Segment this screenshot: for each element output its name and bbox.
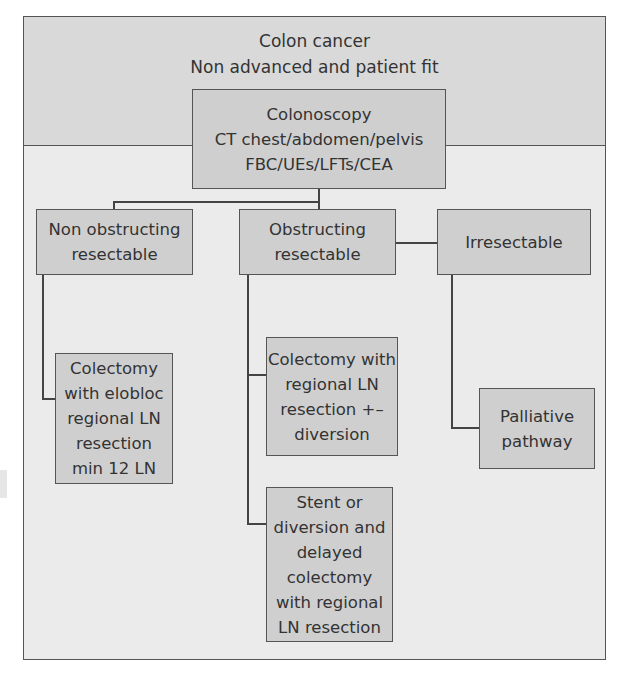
connector-to-colectomy-diversion	[247, 374, 266, 376]
connector-workup-down	[318, 189, 320, 209]
node-colectomy-enbloc: Colectomy with elobloc regional LN resec…	[55, 353, 173, 484]
header-title: Colon cancer Non advanced and patient fi…	[23, 28, 606, 80]
connector-to-colectomy-enbloc	[42, 398, 55, 400]
connector-to-stent-diversion	[247, 523, 266, 525]
connector-irresectable-down	[451, 275, 453, 428]
header-line-1: Colon cancer	[23, 28, 606, 54]
node-palliative: Palliative pathway	[479, 388, 595, 469]
connector-obstructing-irresectable	[396, 242, 437, 244]
connector-to-non-obstructing	[113, 201, 115, 209]
node-colectomy-diversion: Colectomy with regional LN resection +– …	[266, 337, 398, 456]
node-non-obstructing: Non obstructing resectable	[36, 209, 193, 275]
connector-workup-horizontal	[113, 201, 319, 203]
node-irresectable: Irresectable	[437, 209, 591, 275]
node-workup: Colonoscopy CT chest/abdomen/pelvis FBC/…	[192, 89, 446, 189]
connector-obstructing-down	[247, 275, 249, 524]
connector-non-obstructing-down	[42, 275, 44, 399]
node-obstructing: Obstructing resectable	[239, 209, 396, 275]
node-stent-diversion: Stent or diversion and delayed colectomy…	[266, 487, 393, 642]
connector-to-palliative	[451, 427, 479, 429]
header-line-2: Non advanced and patient fit	[23, 54, 606, 80]
scan-artifact	[0, 470, 7, 498]
